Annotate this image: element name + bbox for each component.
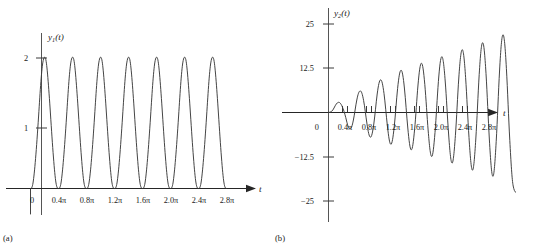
- chart-b-x-axis-arrow: [488, 109, 498, 116]
- chart-b-x-tickmarks: [343, 106, 468, 112]
- chart-a-xtick-label-5: 2.0π: [164, 196, 179, 205]
- panel-b: y2(t) t 25 12.5 0 −12.5 −25 0.4π 0.8π 1.…: [272, 0, 545, 247]
- chart-b-xtick-label-1: 0.8π: [362, 123, 377, 132]
- chart-b-xtick-label-2: 1.2π: [386, 123, 401, 132]
- chart-b-curve: [329, 35, 516, 193]
- panel-a-caption: (a): [3, 233, 13, 243]
- chart-b-ytick-label-12-5: 12.5: [299, 64, 314, 73]
- chart-b-ytick-label-25: 25: [306, 20, 314, 29]
- chart-a-xtick-label-1: 0.4π: [52, 196, 67, 205]
- chart-b-xtick-label-4: 2.0π: [434, 123, 449, 132]
- chart-b-ytick-label-neg12-5: −12.5: [295, 153, 314, 162]
- chart-a-curve: [31, 57, 227, 214]
- chart-b-xtick-label-0: 0.4π: [338, 123, 353, 132]
- chart-a-x-axis-label: t: [259, 184, 262, 194]
- chart-a-xtick-label-4: 1.6π: [136, 196, 151, 205]
- chart-a-xtick-label-2: 0.8π: [80, 196, 95, 205]
- chart-a-xtick-label-3: 1.2π: [108, 196, 123, 205]
- chart-b-ytick-label-neg25: −25: [301, 197, 314, 206]
- chart-a-xtick-label-7: 2.8π: [220, 196, 235, 205]
- chart-b-xtick-label-3: 1.6π: [410, 123, 425, 132]
- chart-a-y-axis-label: y1(t): [47, 32, 64, 43]
- chart-b-svg: y2(t) t 25 12.5 0 −12.5 −25 0.4π 0.8π 1.…: [272, 0, 545, 247]
- chart-a-xtick-label-0: 0: [30, 196, 34, 205]
- chart-a-ytick-label-2: 2: [24, 54, 28, 63]
- chart-b-x-axis-label: t: [503, 108, 506, 118]
- panel-b-caption: (b): [275, 233, 285, 243]
- chart-a-svg: y1(t) t 1 2 0 0.4π 0.8π 1.2π 1.6π 2.0π 2…: [0, 0, 272, 247]
- chart-b-y-axis-label: y2(t): [333, 8, 350, 19]
- panel-a: y1(t) t 1 2 0 0.4π 0.8π 1.2π 1.6π 2.0π 2…: [0, 0, 272, 247]
- chart-b-xtick-label-5: 2.4π: [458, 123, 473, 132]
- chart-b-ytick-label-0: 0: [315, 123, 319, 132]
- chart-a-ytick-label-1: 1: [24, 124, 28, 133]
- chart-b-xtick-label-6: 2.8π: [482, 123, 497, 132]
- chart-a-xtick-label-6: 2.4π: [192, 196, 207, 205]
- chart-a-x-axis-arrow: [246, 185, 256, 192]
